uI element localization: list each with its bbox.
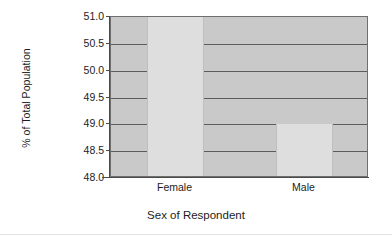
- x-category-label-female: Female: [125, 181, 225, 193]
- y-tick-label: 49.5: [62, 92, 104, 102]
- y-tick-label: 49.0: [62, 118, 104, 128]
- y-axis-line: [109, 16, 110, 178]
- y-tick-label: 48.5: [62, 145, 104, 155]
- y-axis-tick-labels: 51.050.550.049.549.048.548.0: [62, 0, 104, 239]
- x-axis-title: Sex of Respondent: [0, 209, 392, 221]
- y-tick-label: 48.0: [62, 172, 104, 182]
- bar-female: [147, 17, 203, 177]
- bar-chart-figure: % of Total Population 51.050.550.049.549…: [0, 0, 392, 239]
- y-axis-title: % of Total Population: [20, 13, 32, 183]
- x-category-label-male: Male: [254, 181, 354, 193]
- y-tick-label: 51.0: [62, 11, 104, 21]
- y-tick-label: 50.5: [62, 38, 104, 48]
- x-axis-line: [102, 177, 369, 178]
- bar-male: [276, 124, 332, 177]
- plot-area: [110, 16, 368, 177]
- y-tick-label: 50.0: [62, 65, 104, 75]
- page-separator: [0, 234, 392, 235]
